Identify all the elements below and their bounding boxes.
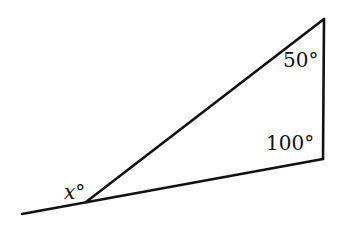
vertical-side-line (323, 19, 324, 159)
hypotenuse-line (86, 19, 324, 202)
triangle-diagram: 50° 100° x° (0, 0, 337, 230)
triangle-figure (0, 0, 337, 230)
angle-label-50: 50° (283, 50, 318, 70)
angle-label-100: 100° (266, 133, 314, 153)
angle-label-x: x° (64, 182, 85, 202)
